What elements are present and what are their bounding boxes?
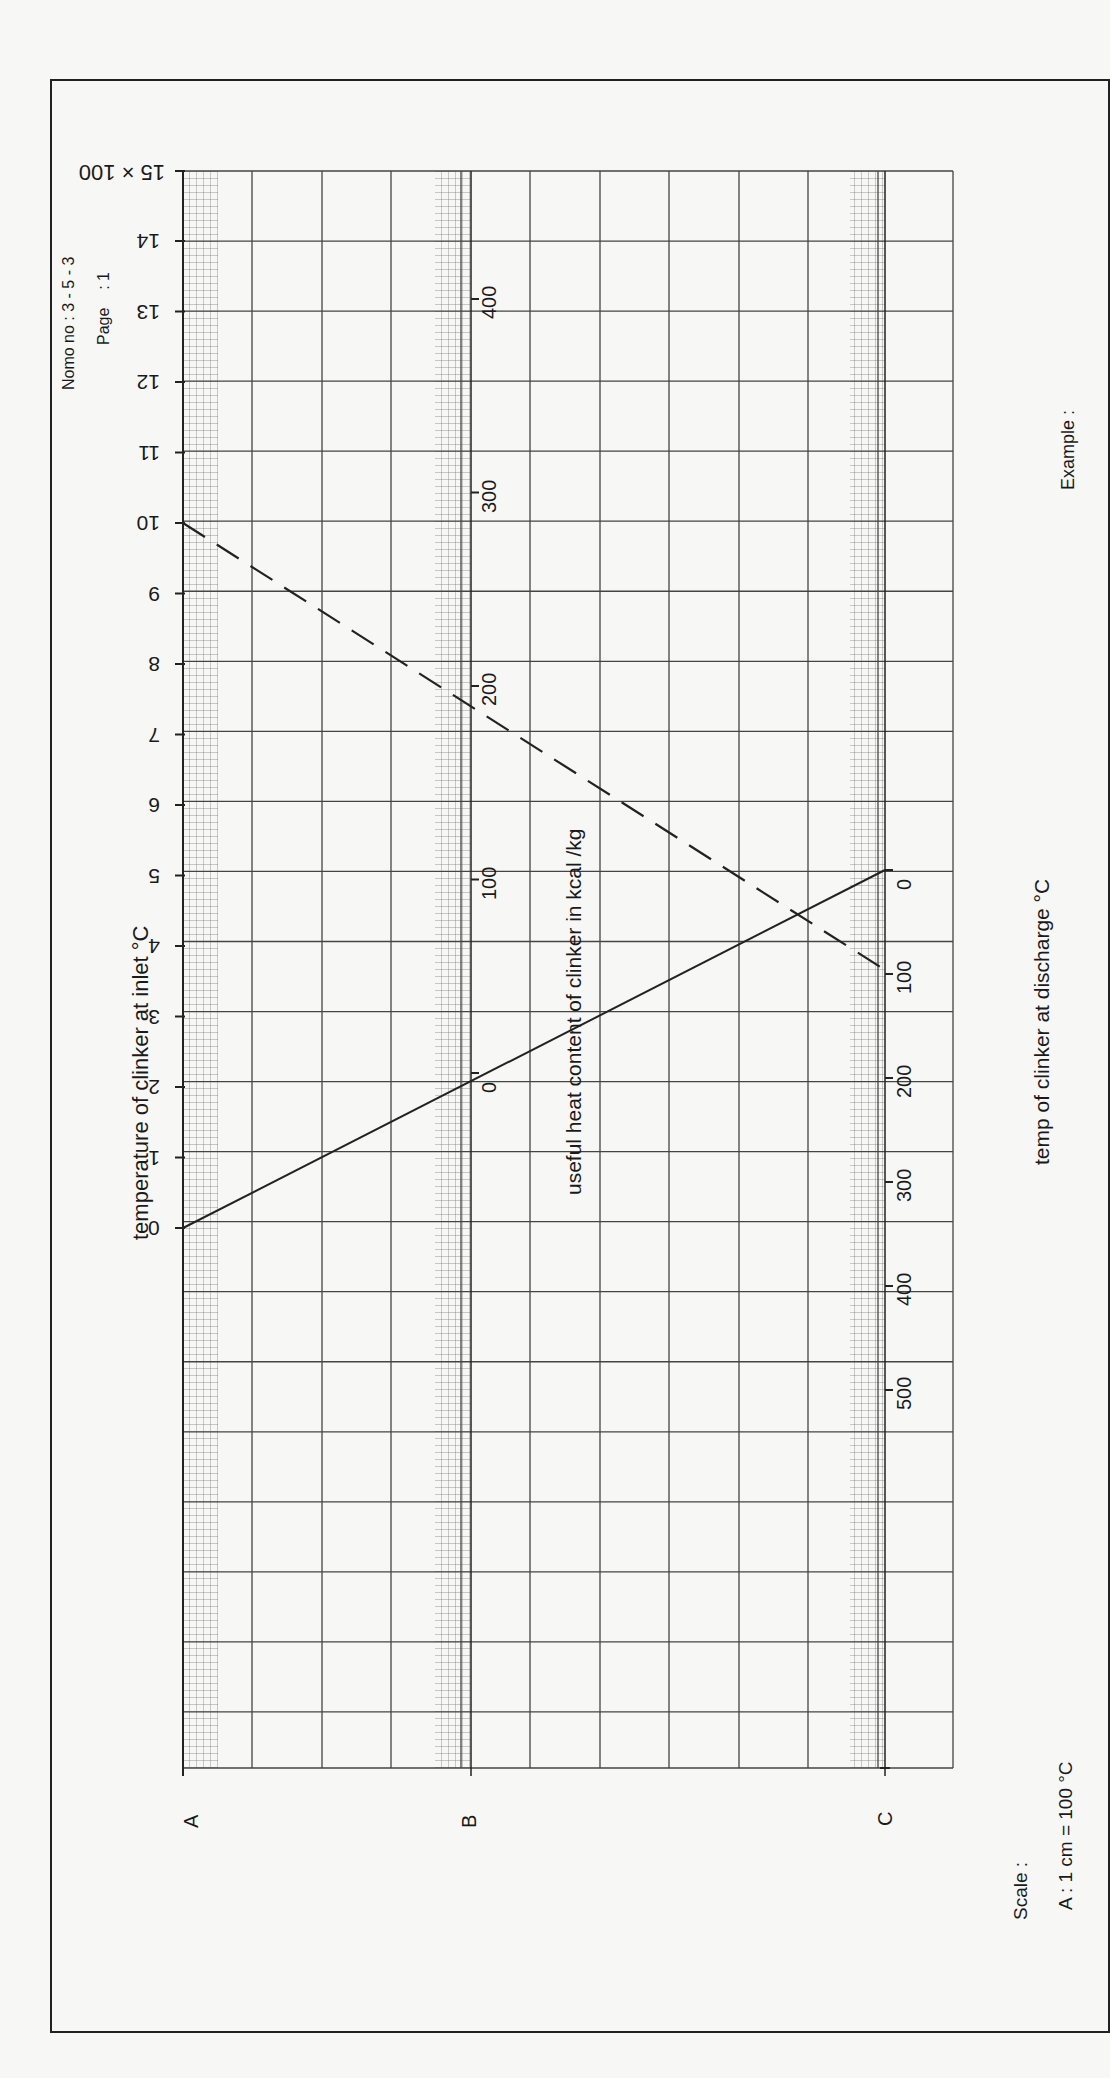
a-axis-tick-label: 1 <box>148 1146 160 1170</box>
a-axis-tick-label: 6 <box>148 793 160 817</box>
a-axis-tick-label: 2 <box>148 1075 160 1099</box>
c-axis-tick-label: 500 <box>893 1377 916 1410</box>
c-axis-tick-label: 100 <box>893 961 916 994</box>
c-axis-tick-label: 400 <box>893 1273 916 1306</box>
scale-value: A : 1 cm = 100 °C <box>1055 1761 1077 1910</box>
example-line-dashed <box>183 523 885 970</box>
b-axis-tick-label: 100 <box>478 866 501 899</box>
a-axis-fine-grid <box>183 171 218 1768</box>
page-number: Page : 1 <box>95 272 113 345</box>
nomo-number: Nomo no : 3 - 5 - 3 <box>60 257 78 390</box>
c-axis-fine-grid <box>850 171 885 1768</box>
a-axis-tick-label: 8 <box>148 652 160 676</box>
a-axis-tick-label: 5 <box>148 864 160 888</box>
b-axis-letter: B <box>458 1815 481 1828</box>
a-axis-tick-label: 14 <box>137 229 160 253</box>
c-axis-letter: C <box>874 1812 897 1826</box>
a-axis-tick-label: 7 <box>148 723 160 747</box>
b-axis-tick-label: 200 <box>478 673 501 706</box>
c-axis-tick-label: 300 <box>893 1169 916 1202</box>
a-axis-tick-label: 10 <box>137 511 160 535</box>
c-axis-tick-label: 0 <box>893 879 916 890</box>
b-axis-tick-label: 400 <box>478 286 501 319</box>
a-axis-tick-label: 3 <box>148 1005 160 1029</box>
a-axis-tick-label: 11 <box>138 441 160 465</box>
b-axis-fine-grid <box>435 171 471 1768</box>
a-axis-tick-label: 12 <box>137 370 160 394</box>
a-axis-tick-label: 4 <box>148 934 160 958</box>
c-axis-title: temp of clinker at discharge °C <box>1030 879 1054 1165</box>
a-axis-letter: A <box>180 1815 203 1828</box>
a-axis-tick-label: 13 <box>137 300 160 324</box>
b-axis-title: useful heat content of clinker in kcal /… <box>562 828 586 1195</box>
b-axis-tick-label: 300 <box>478 479 501 512</box>
a-axis-multiplier: 15 × 100 <box>79 159 165 185</box>
c-axis-tick-label: 200 <box>893 1065 916 1098</box>
scale-label: Scale : <box>1010 1862 1032 1920</box>
a-axis-tick-label: 0 <box>148 1216 160 1240</box>
example-line-solid <box>183 870 885 1228</box>
a-axis-tick-label: 9 <box>148 582 160 606</box>
example-label: Example : <box>1058 410 1079 490</box>
b-axis-tick-label: 0 <box>478 1082 501 1093</box>
